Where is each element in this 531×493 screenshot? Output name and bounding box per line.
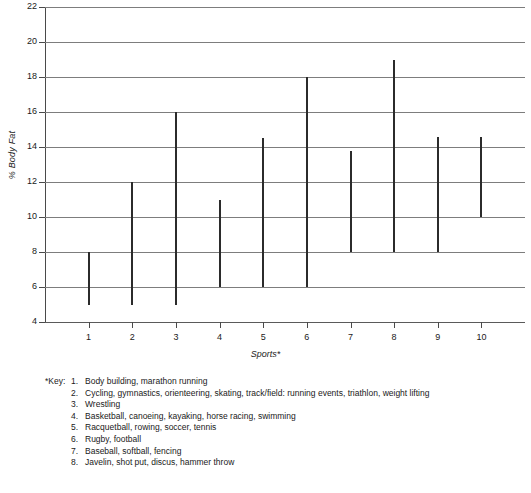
range-bar [350,151,352,253]
key-item: *Key:4.Basketball, canoeing, kayaking, h… [45,411,515,423]
gridline [45,147,525,148]
y-axis-line [45,7,46,322]
x-tick-label: 9 [423,332,453,342]
y-tick [39,287,45,288]
y-tick-label: 12 [11,176,37,186]
x-tick-label: 1 [74,332,104,342]
key-item-text: Baseball, softball, fencing [85,446,515,458]
gridline [45,252,525,253]
x-tick [263,322,264,328]
key-item: *Key:1.Body building, marathon running [45,376,515,388]
y-tick [39,322,45,323]
key-item-text: Cycling, gymnastics, orienteering, skati… [85,388,515,400]
y-tick-label: 10 [11,211,37,221]
key-item-number: 3. [71,399,85,411]
y-tick [39,252,45,253]
gridline [45,112,525,113]
key-item: *Key:7.Baseball, softball, fencing [45,446,515,458]
key-item: *Key:6.Rugby, football [45,434,515,446]
key-item-text: Rugby, football [85,434,515,446]
key-item: *Key:3.Wrestling [45,399,515,411]
x-tick-label: 7 [336,332,366,342]
x-tick [394,322,395,328]
y-tick [39,217,45,218]
key-item-text: Basketball, canoeing, kayaking, horse ra… [85,411,515,423]
x-tick [481,322,482,328]
key-item: *Key:2.Cycling, gymnastics, orienteering… [45,388,515,400]
range-bar [131,182,133,305]
y-tick-label: 4 [11,316,37,326]
y-tick-label: 8 [11,246,37,256]
key-item-number: 1. [71,376,85,388]
key-legend: *Key:1.Body building, marathon running*K… [45,376,515,469]
x-tick [89,322,90,328]
y-tick [39,7,45,8]
y-tick-label: 18 [11,71,37,81]
x-tick-label: 2 [117,332,147,342]
y-tick [39,42,45,43]
y-tick-label: 20 [11,36,37,46]
plot-area: 46810121416182022 12345678910 [45,7,525,322]
range-bar [219,200,221,288]
x-tick-label: 4 [205,332,235,342]
key-item-number: 8. [71,457,85,469]
figure-root: % Body Fat 46810121416182022 12345678910… [0,0,531,493]
y-tick-label: 16 [11,106,37,116]
key-item-number: 2. [71,388,85,400]
x-tick-label: 3 [161,332,191,342]
range-bar [306,77,308,287]
range-bar [437,137,439,253]
x-axis-title: Sports* [0,349,531,359]
range-bar [175,112,177,305]
key-item-text: Racquetball, rowing, soccer, tennis [85,422,515,434]
x-tick [132,322,133,328]
key-item-number: 5. [71,422,85,434]
x-tick [351,322,352,328]
key-item-text: Body building, marathon running [85,376,515,388]
x-tick [220,322,221,328]
gridline [45,287,525,288]
key-item-text: Javelin, shot put, discus, hammer throw [85,457,515,469]
range-bar [393,60,395,253]
key-label: *Key: [45,376,71,388]
key-item-number: 4. [71,411,85,423]
key-item: *Key:5.Racquetball, rowing, soccer, tenn… [45,422,515,434]
gridline [45,217,525,218]
range-bar [480,137,482,218]
range-bar [88,252,90,305]
gridline [45,182,525,183]
y-tick-label: 22 [11,1,37,11]
y-tick-label: 14 [11,141,37,151]
key-item-number: 7. [71,446,85,458]
x-tick-label: 6 [292,332,322,342]
gridline [45,7,525,8]
gridline [45,42,525,43]
gridline [45,77,525,78]
key-item-text: Wrestling [85,399,515,411]
y-tick-label: 6 [11,281,37,291]
y-tick [39,77,45,78]
x-tick-label: 10 [466,332,496,342]
x-tick [438,322,439,328]
key-item-number: 6. [71,434,85,446]
x-tick [307,322,308,328]
key-item: *Key:8.Javelin, shot put, discus, hammer… [45,457,515,469]
chart-container: % Body Fat 46810121416182022 12345678910… [0,0,531,372]
y-tick [39,182,45,183]
x-tick [176,322,177,328]
range-bar [262,138,264,287]
x-tick-label: 8 [379,332,409,342]
y-tick [39,112,45,113]
y-tick [39,147,45,148]
gridline [45,322,525,323]
x-tick-label: 5 [248,332,278,342]
